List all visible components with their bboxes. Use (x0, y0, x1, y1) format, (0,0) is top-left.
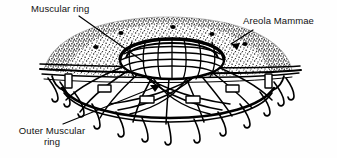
label-outer-muscular-ring-line1: Outer Muscular (19, 125, 85, 136)
label-areola-mammae: Areola Mammae (243, 15, 314, 26)
figure-canvas: Muscular ring Areola Mammae Outer Muscul… (0, 0, 337, 158)
label-outer-muscular-ring-line2: ring (6, 136, 98, 147)
inner-muscular-ring (120, 39, 224, 79)
label-muscular-ring: Muscular ring (31, 3, 89, 14)
label-outer-muscular-ring: Outer Muscularring (6, 125, 98, 147)
